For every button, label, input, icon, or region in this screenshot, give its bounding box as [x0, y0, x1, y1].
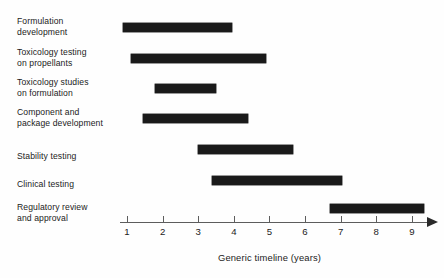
x-axis-tick	[341, 216, 342, 222]
x-axis-tick-label: 6	[302, 226, 307, 237]
task-label-line: Stability testing	[17, 151, 77, 162]
gantt-bar	[198, 145, 292, 154]
task-label: Regulatory reviewand approval	[17, 202, 87, 223]
x-axis-tick-label: 2	[160, 226, 165, 237]
gantt-chart: FormulationdevelopmentToxicology testing…	[0, 0, 444, 278]
task-label-line: and approval	[17, 213, 87, 224]
x-axis-tick-label: 4	[231, 226, 236, 237]
gantt-bar	[330, 204, 424, 213]
gantt-bar	[212, 176, 342, 185]
x-axis-tick	[127, 216, 128, 222]
task-label: Toxicology testingon propellants	[17, 47, 87, 68]
x-axis-title-text: Generic timeline (years)	[218, 252, 321, 263]
task-label-line: on formulation	[17, 88, 89, 99]
task-label: Toxicology studieson formulation	[17, 77, 89, 98]
x-axis-tick	[305, 216, 306, 222]
task-label-line: package development	[17, 118, 103, 129]
gantt-bar	[143, 114, 248, 123]
x-axis-tick	[198, 216, 199, 222]
task-label: Formulationdevelopment	[17, 16, 67, 37]
task-label-line: Formulation	[17, 16, 67, 27]
task-label-line: Clinical testing	[17, 179, 74, 190]
x-axis-line	[120, 222, 430, 223]
task-label-line: Toxicology testing	[17, 47, 87, 58]
x-axis-tick	[269, 216, 270, 222]
x-axis-tick-label: 7	[338, 226, 343, 237]
task-label: Stability testing	[17, 151, 77, 162]
x-axis-tick	[234, 216, 235, 222]
x-axis-title: Generic timeline (years)	[0, 252, 444, 263]
x-axis-tick-label: 5	[267, 226, 272, 237]
x-axis-tick-label: 3	[196, 226, 201, 237]
gantt-bar	[123, 23, 232, 32]
x-axis-tick	[163, 216, 164, 222]
gantt-bar	[131, 54, 266, 63]
task-label-line: on propellants	[17, 58, 87, 69]
task-label-line: Regulatory review	[17, 202, 87, 213]
task-label-line: development	[17, 27, 67, 38]
gantt-bar	[155, 84, 216, 93]
x-axis-tick-label: 1	[124, 226, 129, 237]
task-label: Clinical testing	[17, 179, 74, 190]
x-axis-tick-label: 9	[409, 226, 414, 237]
task-label: Component andpackage development	[17, 107, 103, 128]
x-axis-tick	[412, 216, 413, 222]
x-axis-tick-label: 8	[374, 226, 379, 237]
x-axis-tick	[376, 216, 377, 222]
task-label-line: Component and	[17, 107, 103, 118]
task-label-line: Toxicology studies	[17, 77, 89, 88]
x-axis-arrowhead	[427, 217, 438, 227]
